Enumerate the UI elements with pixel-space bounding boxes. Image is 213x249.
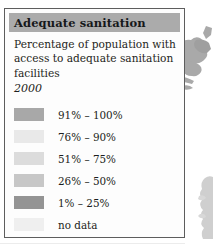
legend-item-26-50: 26% – 50% [14,170,178,192]
legend-swatch-1-25 [14,196,44,209]
legend-item-91-100: 91% – 100% [14,104,178,126]
legend-swatch-76-90 [14,130,44,143]
legend-description: Percentage of population with access to … [14,37,182,80]
legend-label-1-25: 1% – 25% [58,197,109,209]
map-legend-panel: Adequate sanitation Percentage of popula… [4,8,185,238]
legend-label-51-75: 51% – 75% [58,153,116,165]
legend-label-76-90: 76% – 90% [58,131,116,143]
legend-label-91-100: 91% – 100% [58,109,123,121]
legend-item-76-90: 76% – 90% [14,126,178,148]
legend-swatch-26-50 [14,174,44,187]
legend-item-no-data: no data [14,214,178,236]
legend-label-26-50: 26% – 50% [58,175,116,187]
legend-swatch-51-75 [14,152,44,165]
legend-item-1-25: 1% – 25% [14,192,178,214]
page-rule [0,243,185,244]
legend-swatch-no-data [14,218,44,231]
legend-title: Adequate sanitation [9,16,146,30]
legend-title-bar: Adequate sanitation [9,13,180,32]
coastline-fragment [198,176,213,239]
legend-swatch-91-100 [14,108,44,121]
legend-body: Percentage of population with access to … [5,34,184,237]
legend-label-no-data: no data [58,219,97,231]
legend-item-51-75: 51% – 75% [14,148,178,170]
legend-year: 2000 [14,80,178,96]
legend-items-list: 91% – 100% 76% – 90% 51% – 75% 26% – 50%… [14,104,178,236]
